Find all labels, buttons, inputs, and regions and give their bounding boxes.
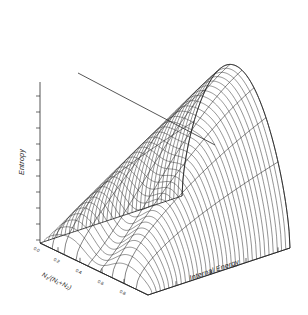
- entropy-axis-ticks: [36, 96, 40, 240]
- surface-line: [65, 202, 173, 286]
- surface-line: [40, 243, 148, 295]
- axis-system: [36, 82, 290, 295]
- surface-line: [149, 101, 257, 259]
- surface-line: [57, 214, 165, 290]
- composition-tick-label: 0.4: [75, 268, 83, 275]
- composition-tick-label: 0.6: [97, 279, 105, 286]
- surface-line: [182, 64, 290, 248]
- surface-line: [88, 64, 230, 266]
- surface-line: [94, 167, 202, 277]
- surface-line: [73, 192, 181, 284]
- surface-rib-curves: [52, 64, 278, 289]
- surface-line: [153, 96, 261, 258]
- composition-tick-label: 0.2: [53, 257, 61, 264]
- surface-boundary-edges: [40, 64, 290, 295]
- surface-line: [182, 64, 290, 248]
- entropy-axis-title: Entropy: [17, 149, 26, 175]
- surface-plot: Entropy Internal Energy N₁/(N₁+N₂) 0.0 0…: [0, 0, 308, 315]
- composition-tick-label: 0.8: [119, 289, 127, 296]
- figure-container: Entropy Internal Energy N₁/(N₁+N₂) 0.0 0…: [0, 0, 308, 315]
- surface-line: [103, 157, 211, 274]
- surface-line: [178, 68, 286, 249]
- composition-tick-label: 0.0: [33, 246, 41, 253]
- composition-axis-title: N₁/(N₁+N₂): [41, 271, 73, 292]
- surface-line: [98, 162, 206, 276]
